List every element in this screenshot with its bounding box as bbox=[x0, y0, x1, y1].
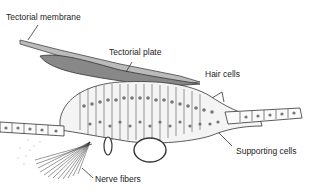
organ-of-corti-illustration bbox=[0, 0, 316, 192]
pointer-tectorial-membrane bbox=[28, 25, 38, 40]
label-supporting-cells: Supporting cells bbox=[236, 147, 296, 156]
label-nerve-fibers: Nerve fibers bbox=[95, 175, 141, 184]
label-tectorial-membrane: Tectorial membrane bbox=[6, 13, 81, 22]
label-hair-cells: Hair cells bbox=[205, 70, 240, 79]
pointer-nerve-fibers bbox=[82, 168, 93, 178]
left-epithelium bbox=[0, 122, 64, 136]
pointer-hair-cells-2 bbox=[222, 92, 224, 102]
nerve-fibers-bundle bbox=[17, 139, 92, 179]
label-tectorial-plate: Tectorial plate bbox=[109, 48, 161, 57]
pointer-hair-cells-1 bbox=[212, 92, 222, 98]
